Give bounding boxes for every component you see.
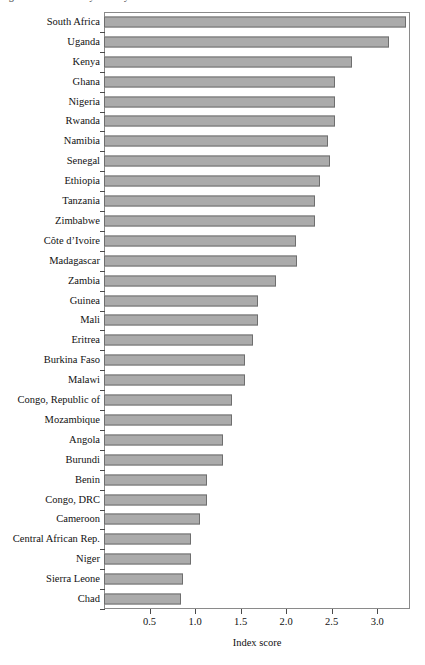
category-tick xyxy=(100,52,105,53)
bar-row xyxy=(104,291,410,311)
bar-row xyxy=(104,191,410,211)
x-axis-tick xyxy=(377,609,378,614)
bar xyxy=(104,96,335,107)
bar xyxy=(104,395,232,406)
bar-row xyxy=(104,72,410,92)
category-tick xyxy=(100,291,105,292)
bar-row xyxy=(104,231,410,251)
x-axis-tick-label: 1.5 xyxy=(221,616,261,627)
category-tick xyxy=(100,589,105,590)
category-label: Malawi xyxy=(0,374,100,385)
bar xyxy=(104,255,297,266)
bar-row xyxy=(104,131,410,151)
bar xyxy=(104,16,406,27)
bar xyxy=(104,375,245,386)
bar xyxy=(104,275,276,286)
bar-row xyxy=(104,350,410,370)
category-label: Zambia xyxy=(0,275,100,286)
category-label: Namibia xyxy=(0,135,100,146)
category-tick xyxy=(100,251,105,252)
x-axis-tick-label: 2.5 xyxy=(312,616,352,627)
category-label: Uganda xyxy=(0,36,100,47)
category-tick xyxy=(100,112,105,113)
bar xyxy=(104,156,330,167)
bars-container xyxy=(104,12,410,609)
x-axis-tick-label: 1.0 xyxy=(175,616,215,627)
category-axis-labels: South AfricaUgandaKenyaGhanaNigeriaRwand… xyxy=(0,12,100,609)
category-tick xyxy=(100,211,105,212)
bar-row xyxy=(104,12,410,32)
category-tick xyxy=(100,350,105,351)
x-axis-tick xyxy=(241,609,242,614)
bar-row xyxy=(104,271,410,291)
category-label: Rwanda xyxy=(0,115,100,126)
category-tick xyxy=(100,32,105,33)
x-axis-tick-label: 3.0 xyxy=(357,616,397,627)
bar xyxy=(104,315,258,326)
bar-row xyxy=(104,470,410,490)
bar xyxy=(104,434,223,445)
category-tick xyxy=(100,191,105,192)
x-axis-tick-label: 2.0 xyxy=(266,616,306,627)
category-tick xyxy=(100,72,105,73)
x-axis-title: Index score xyxy=(104,637,410,648)
x-axis-tick xyxy=(332,609,333,614)
category-tick xyxy=(100,271,105,272)
category-tick xyxy=(100,430,105,431)
category-tick xyxy=(100,131,105,132)
category-label: Niger xyxy=(0,553,100,564)
category-tick xyxy=(100,370,105,371)
bar-row xyxy=(104,330,410,350)
x-axis-tick xyxy=(286,609,287,614)
category-tick xyxy=(100,330,105,331)
bar xyxy=(104,215,315,226)
category-tick xyxy=(100,529,105,530)
bar-row xyxy=(104,112,410,132)
category-tick xyxy=(100,470,105,471)
category-tick xyxy=(100,450,105,451)
category-label: Côte d’Ivoire xyxy=(0,235,100,246)
category-label: Sierra Leone xyxy=(0,573,100,584)
category-tick xyxy=(100,510,105,511)
bar-row xyxy=(104,410,410,430)
bar xyxy=(104,136,328,147)
category-label: Senegal xyxy=(0,155,100,166)
bar xyxy=(104,176,320,187)
category-label: Guinea xyxy=(0,295,100,306)
category-tick xyxy=(100,92,105,93)
bar-row xyxy=(104,151,410,171)
figure-title: Figure: Index score by country xyxy=(0,0,425,3)
category-label: Eritrea xyxy=(0,334,100,345)
bar-row xyxy=(104,390,410,410)
bar xyxy=(104,454,223,465)
figure-container: Figure: Index score by country South Afr… xyxy=(0,0,425,665)
category-tick xyxy=(100,609,105,610)
category-tick xyxy=(100,311,105,312)
bar xyxy=(104,534,191,545)
bar-row xyxy=(104,510,410,530)
bar xyxy=(104,116,335,127)
bar xyxy=(104,335,253,346)
bar-row xyxy=(104,450,410,470)
bar-row xyxy=(104,430,410,450)
category-label: Kenya xyxy=(0,56,100,67)
bar-row xyxy=(104,311,410,331)
bar xyxy=(104,594,181,605)
bar xyxy=(104,514,200,525)
bar xyxy=(104,355,245,366)
category-label: Burundi xyxy=(0,454,100,465)
category-tick xyxy=(100,490,105,491)
bar-row xyxy=(104,549,410,569)
bar xyxy=(104,235,296,246)
x-axis-tick xyxy=(150,609,151,614)
bar-row xyxy=(104,529,410,549)
bar-row xyxy=(104,251,410,271)
category-tick xyxy=(100,151,105,152)
x-axis-tick-label: 0.5 xyxy=(130,616,170,627)
bar xyxy=(104,474,207,485)
category-tick xyxy=(100,171,105,172)
category-label: Burkina Faso xyxy=(0,354,100,365)
category-label: Congo, DRC xyxy=(0,494,100,505)
category-label: Central African Rep. xyxy=(0,533,100,544)
category-label: Mali xyxy=(0,314,100,325)
